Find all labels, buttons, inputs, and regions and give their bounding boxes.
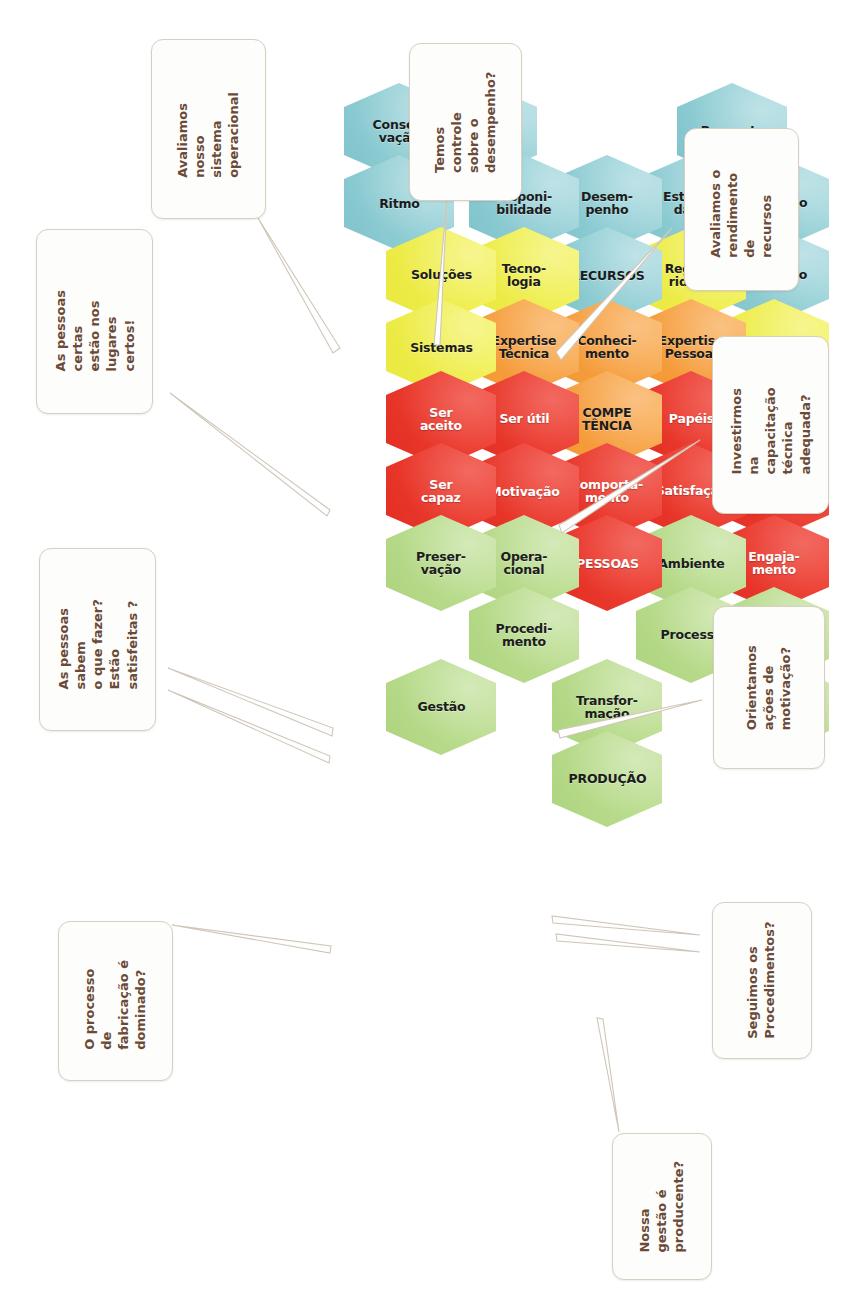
callout-text: Temos controle sobre o desempenho?: [431, 71, 500, 172]
callout-sistema-operacional[interactable]: Avaliamos nosso sistema operacional: [151, 39, 266, 219]
callout-controle-desempenho[interactable]: Temos controle sobre o desempenho?: [409, 43, 522, 201]
callout-procedimentos[interactable]: Seguimos os Procedimentos?: [712, 902, 812, 1059]
callout-capacitacao-tecnica[interactable]: Investirmos na capacitação técnica adequ…: [712, 336, 829, 514]
callout-text: Avaliamos o rendimento de recursos: [707, 161, 776, 258]
callout-pessoas-certas[interactable]: As pessoas certas estão nos lugares cert…: [36, 229, 153, 414]
callout-text: O processo de fabricação é dominado?: [81, 953, 150, 1050]
callout-processo-fabricacao[interactable]: O processo de fabricação é dominado?: [58, 921, 173, 1081]
callout-pessoas-sabem[interactable]: As pessoas sabem o que fazer? Estão sati…: [39, 548, 156, 731]
callout-text: As pessoas sabem o que fazer? Estão sati…: [55, 590, 141, 689]
diagram-canvas: Aplicação Resposta Limitação Operação Es…: [0, 0, 857, 1289]
callout-text: Avaliamos nosso sistema operacional: [174, 81, 243, 178]
callout-rendimento-recursos[interactable]: Avaliamos o rendimento de recursos: [684, 128, 799, 291]
callout-text: Orientamos ações de motivação?: [743, 645, 794, 730]
callout-text: Investirmos na capacitação técnica adequ…: [728, 376, 814, 475]
callout-text: Seguimos os Procedimentos?: [745, 922, 779, 1039]
callout-gestao-producente[interactable]: Nossa gestão é producente?: [612, 1133, 712, 1280]
callout-text: As pessoas certas estão nos lugares cert…: [52, 272, 138, 371]
callout-acoes-motivacao[interactable]: Orientamos ações de motivação?: [713, 606, 825, 769]
callout-text: Nossa gestão é producente?: [636, 1161, 687, 1253]
